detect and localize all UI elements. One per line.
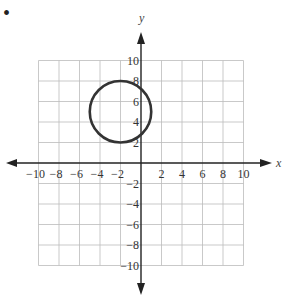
y-tick-label: −6 <box>126 218 139 232</box>
x-axis-label: x <box>275 156 282 170</box>
x-tick-label: −10 <box>26 167 45 181</box>
y-tick-label: 10 <box>127 54 139 68</box>
x-tick-label: −2 <box>111 167 124 181</box>
x-tick-label: −6 <box>70 167 83 181</box>
y-tick-label: −2 <box>126 177 139 191</box>
x-tick-label: 4 <box>179 167 185 181</box>
x-tick-label: 2 <box>159 167 165 181</box>
y-tick-label: 2 <box>133 136 139 150</box>
y-axis-up-arrow-icon <box>137 32 145 44</box>
y-tick-label: 6 <box>133 95 139 109</box>
x-tick-label: −8 <box>50 167 63 181</box>
coordinate-plane: • x y −10−8−6−4−2246810 108642−2−4−6−8−1… <box>0 0 285 301</box>
y-axis-down-arrow-icon <box>137 283 145 295</box>
x-tick-label: 10 <box>238 167 250 181</box>
x-tick-label: 8 <box>220 167 226 181</box>
y-axis-label: y <box>138 11 145 25</box>
y-tick-label: 4 <box>133 115 139 129</box>
bullet-marker: • <box>3 2 10 24</box>
y-tick-label: −8 <box>126 238 139 252</box>
y-tick-label: 8 <box>133 74 139 88</box>
x-tick-label: −4 <box>91 167 104 181</box>
y-tick-label: −10 <box>120 259 139 273</box>
x-axis-left-arrow-icon <box>6 159 17 167</box>
x-axis-right-arrow-icon <box>260 159 272 167</box>
x-tick-label: 6 <box>200 167 206 181</box>
y-tick-label: −4 <box>126 197 139 211</box>
